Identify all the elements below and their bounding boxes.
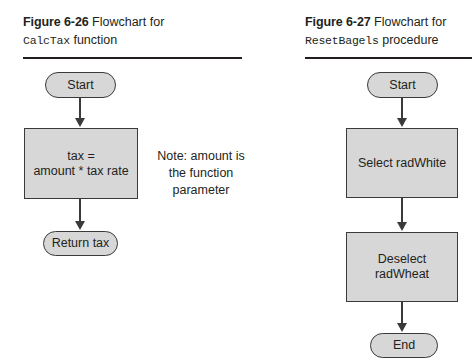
node-label: Deselect radWheat <box>347 252 457 282</box>
figure-description-right: Flowchart for <box>374 15 446 29</box>
node-label: Select radWhite <box>354 156 450 171</box>
flowchart-node-deselect-radwheat: Deselect radWheat <box>346 232 458 302</box>
connector-start-to-process-left <box>79 98 81 119</box>
connector-process-to-return-left <box>79 199 81 222</box>
figure-number-left: Figure 6-26 <box>23 15 89 29</box>
figure-subject-suffix-left: function <box>73 33 117 47</box>
arrowhead-down-icon <box>397 118 407 127</box>
figure-caption-right: Figure 6-27 Flowchart for ResetBagels pr… <box>305 14 472 49</box>
flowchart-note-left: Note: amount is the function parameter <box>147 148 255 199</box>
arrowhead-down-icon <box>397 323 407 332</box>
flowchart-node-start-right: Start <box>367 72 438 98</box>
connector-deselect-to-end-right <box>401 302 403 324</box>
flowchart-node-process-tax: tax = amount * tax rate <box>24 128 138 199</box>
caption-rule-right <box>305 57 472 59</box>
node-label: tax = amount * tax rate <box>29 149 132 179</box>
node-label: Start <box>385 78 419 93</box>
flowchart-node-return-tax: Return tax <box>43 231 118 256</box>
connector-start-to-select-right <box>401 98 403 119</box>
figure-page: Figure 6-26 Flowchart for CalcTax functi… <box>0 0 472 360</box>
figure-subject-left: CalcTax function <box>23 32 253 49</box>
figure-subject-suffix-right: procedure <box>382 33 438 47</box>
node-label: End <box>389 338 419 353</box>
arrowhead-down-icon <box>75 221 85 230</box>
flowchart-node-end-right: End <box>370 333 438 358</box>
figure-caption-left: Figure 6-26 Flowchart for CalcTax functi… <box>23 14 253 49</box>
figure-description-left: Flowchart for <box>92 15 164 29</box>
figure-subject-right: ResetBagels procedure <box>305 32 472 49</box>
figure-subject-code-right: ResetBagels <box>305 34 379 47</box>
flowchart-node-start-left: Start <box>45 72 116 98</box>
figure-number-right: Figure 6-27 <box>305 15 371 29</box>
caption-rule-left <box>23 57 242 59</box>
node-label: Start <box>63 78 97 93</box>
node-label: Return tax <box>48 236 114 251</box>
arrowhead-down-icon <box>397 222 407 231</box>
figure-subject-code-left: CalcTax <box>23 34 70 47</box>
arrowhead-down-icon <box>75 118 85 127</box>
flowchart-node-select-radwhite: Select radWhite <box>346 128 458 198</box>
connector-select-to-deselect-right <box>401 198 403 223</box>
